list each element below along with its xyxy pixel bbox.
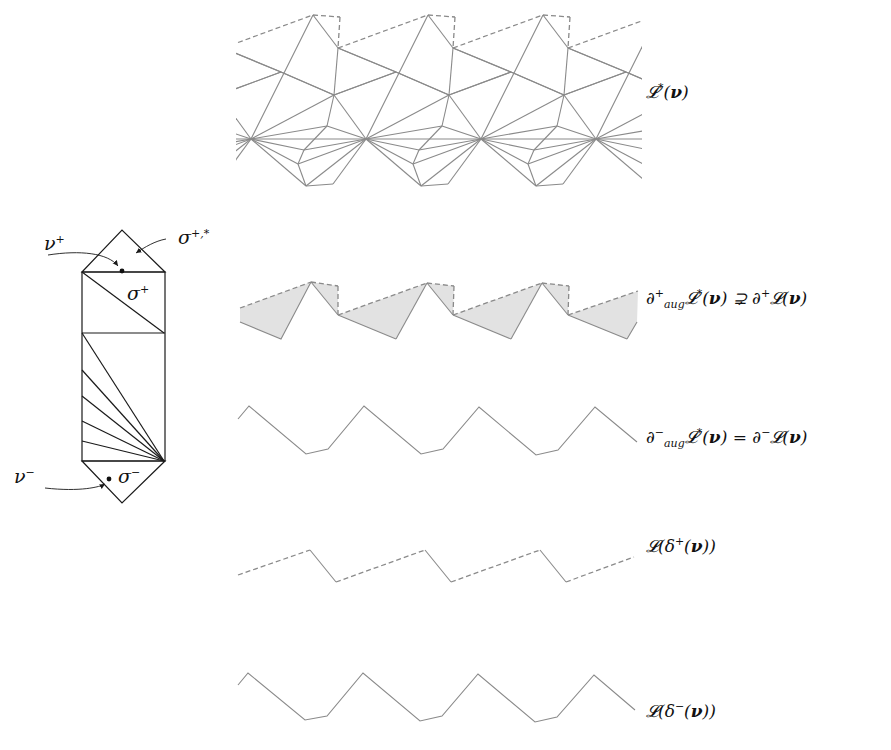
augmented-plus-boundary (240, 282, 638, 339)
augmented-minus-boundary (238, 406, 637, 455)
label-augmented-plus-boundary: ∂+aug𝓛*(ν) ⊋ ∂+𝓛(ν) (646, 288, 807, 308)
delta-minus-link (238, 673, 635, 722)
sigma-plus-star-label: σ+,* (178, 226, 209, 248)
label-delta-minus-link: 𝓛(δ−(ν)) (646, 701, 716, 721)
label-delta-plus-link: 𝓛(δ+(ν)) (646, 536, 716, 556)
nu-plus-label: ν+ (44, 232, 65, 254)
diagram-canvas (0, 0, 891, 750)
label-augmented-minus-boundary: ∂−aug𝓛*(ν) = ∂−𝓛(ν) (646, 427, 807, 447)
sigma-plus-label: σ+ (127, 282, 149, 304)
label-link-star: 𝓛*(ν) (646, 82, 689, 102)
nu-minus-label: ν− (14, 465, 35, 487)
prism-diagram (45, 230, 166, 503)
sigma-minus-label: σ− (118, 465, 140, 487)
delta-plus-link (238, 550, 634, 582)
